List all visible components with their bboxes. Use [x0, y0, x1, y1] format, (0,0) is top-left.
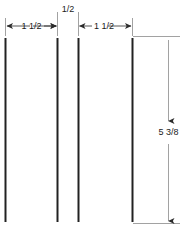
drawing-svg: 1 1/2 1/2 1 1/2 5 3/8	[0, 0, 187, 240]
horizontal-dimension-3: 1 1/2	[94, 21, 131, 31]
dimension-label-1: 1 1/2	[21, 21, 41, 31]
horizontal-dimension-2: 1/2	[44, 4, 92, 26]
slat-group	[6, 38, 133, 222]
dimension-label-4: 5 3/8	[158, 127, 178, 137]
dimension-label-3: 1 1/2	[94, 21, 114, 31]
dimension-label-2: 1/2	[62, 4, 75, 14]
technical-drawing-canvas: 1 1/2 1/2 1 1/2 5 3/8	[0, 0, 187, 240]
vertical-dimension-1: 5 3/8	[133, 37, 180, 224]
